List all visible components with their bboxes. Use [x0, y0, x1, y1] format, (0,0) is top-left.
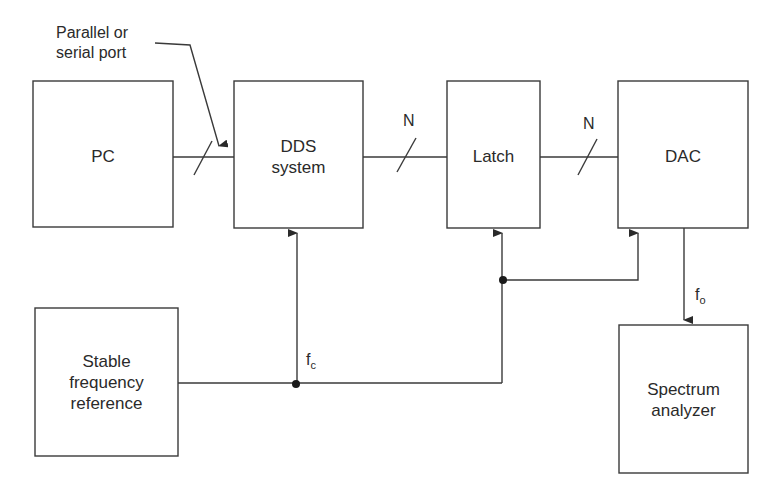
- dds-label-line2: system: [234, 157, 363, 178]
- analyzer-label: Spectrum analyzer: [619, 379, 748, 421]
- bus-width-label: N: [403, 111, 415, 131]
- analyzer-label-line2: analyzer: [619, 400, 748, 421]
- port-pointer-arrow: [155, 43, 219, 146]
- junction-dot: [499, 276, 507, 284]
- output-frequency-label: fo: [695, 285, 706, 306]
- dac-clock-line: [502, 233, 638, 280]
- clock-subscript: c: [310, 359, 316, 371]
- output-subscript: o: [699, 294, 705, 306]
- dds-label: DDS system: [234, 136, 363, 178]
- reference-label-line2: frequency: [35, 372, 178, 393]
- diagram-canvas: [0, 0, 776, 496]
- analyzer-label-line1: Spectrum: [619, 379, 748, 400]
- latch-label: Latch: [447, 146, 540, 167]
- reference-label-line3: reference: [35, 393, 178, 414]
- dac-label: DAC: [618, 146, 748, 167]
- pc-label: PC: [33, 146, 173, 167]
- bus-slash-icon: [194, 141, 212, 175]
- port-annotation: Parallel or serial port: [56, 23, 128, 63]
- port-annotation-line1: Parallel or: [56, 23, 128, 43]
- reference-label-line1: Stable: [35, 351, 178, 372]
- junction-dot: [292, 380, 300, 388]
- dds-label-line1: DDS: [234, 136, 363, 157]
- reference-label: Stable frequency reference: [35, 351, 178, 414]
- port-annotation-line2: serial port: [56, 43, 128, 63]
- bus-width-label: N: [583, 114, 595, 134]
- bus-slash-icon: [397, 138, 416, 172]
- clock-frequency-label: fc: [306, 350, 316, 371]
